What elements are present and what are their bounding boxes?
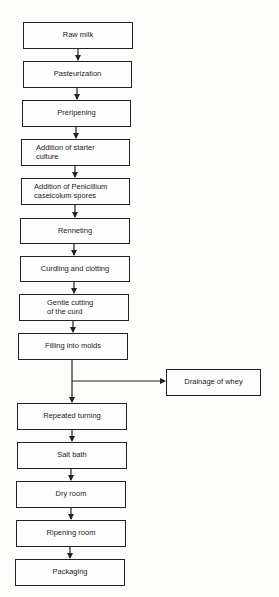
step-curdling: Curdling and clotting (20, 256, 130, 282)
step-raw-milk: Raw milk (23, 22, 133, 49)
step-penicillium: Addition of Penicilliumcaseicolum spores (21, 178, 130, 205)
step-label: Repeated turning (43, 412, 101, 421)
step-drainage: Drainage of whey (166, 369, 261, 396)
step-preripening: Preripening (22, 100, 131, 127)
step-ripening-room: Ripening room (16, 520, 126, 547)
step-label: Raw milk (63, 31, 93, 40)
step-label: Preripening (57, 109, 95, 118)
step-label: Drainage of whey (184, 378, 242, 387)
step-label: Addition of starterculture (36, 144, 95, 161)
step-repeated-turning: Repeated turning (17, 403, 127, 430)
step-label: Curdling and clotting (41, 265, 109, 274)
step-label: Gentle cuttingof the curd (47, 299, 93, 316)
step-filling: Filling into molds (18, 333, 128, 360)
step-pasteurization: Pasteurization (23, 61, 132, 88)
step-renneting: Renneting (20, 218, 130, 244)
step-gentle-cutting: Gentle cuttingof the curd (19, 294, 129, 321)
step-label: Filling into molds (45, 342, 101, 351)
step-label: Packaging (52, 568, 87, 577)
step-packaging: Packaging (15, 559, 125, 586)
step-label: Pasteurization (54, 70, 102, 79)
step-starter-culture: Addition of starterculture (21, 139, 130, 166)
step-salt-bath: Salt bath (17, 442, 127, 469)
step-label: Addition of Penicilliumcaseicolum spores (34, 183, 107, 200)
step-label: Renneting (58, 227, 92, 236)
step-label: Ripening room (47, 529, 96, 538)
step-dry-room: Dry room (16, 481, 126, 508)
step-label: Salt bath (57, 451, 87, 460)
step-label: Dry room (56, 490, 87, 499)
